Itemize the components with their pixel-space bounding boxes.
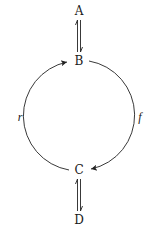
harpoon-arrow-c-d — [76, 179, 83, 211]
label-f: f — [138, 111, 141, 123]
node-a: A — [75, 5, 84, 17]
label-r: r — [18, 111, 23, 123]
node-b: B — [75, 55, 84, 67]
diagram: A B C D r f — [0, 0, 158, 228]
node-d: D — [74, 214, 84, 226]
diagram-arrows — [0, 0, 158, 228]
harpoon-arrow-a-b — [76, 20, 83, 52]
arrow-f — [89, 61, 135, 169]
arrow-r — [23, 62, 69, 170]
node-c: C — [74, 164, 83, 176]
